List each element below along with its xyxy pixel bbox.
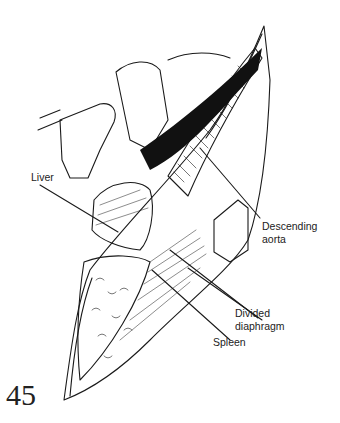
label-divided-diaphragm-line2: diaphragm — [235, 320, 285, 332]
retractor-right — [214, 200, 248, 262]
label-divided-diaphragm-line1: Divided — [235, 307, 270, 319]
figure-number: 45 — [6, 378, 36, 412]
thoracic-cavity-shadow — [140, 48, 262, 170]
label-descending-aorta-line2: aorta — [262, 233, 286, 245]
label-spleen: Spleen — [213, 336, 246, 348]
anatomical-illustration — [0, 0, 340, 423]
label-descending-aorta-line1: Descending — [262, 220, 317, 232]
leader-liver — [40, 185, 118, 232]
retractor-left — [60, 104, 115, 178]
leader-spleen — [152, 270, 230, 340]
label-liver: Liver — [31, 171, 54, 183]
leader-aorta — [200, 148, 260, 218]
